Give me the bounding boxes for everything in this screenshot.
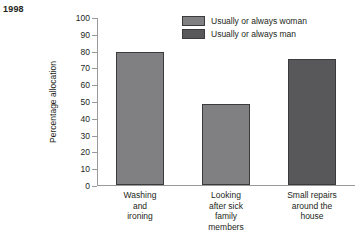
category-label-line: family — [183, 211, 269, 222]
category-label-line: ironing — [97, 211, 183, 222]
bar — [288, 59, 336, 185]
y-tick-mark — [92, 102, 97, 103]
category-label-line: house — [269, 211, 355, 222]
y-tick-mark — [92, 186, 97, 187]
y-tick-mark — [92, 85, 97, 86]
year-label: 1998 — [3, 4, 24, 14]
y-tick-label: 0 — [85, 182, 90, 191]
category-label-line: Looking — [183, 190, 269, 201]
y-tick-mark — [92, 152, 97, 153]
y-tick-label: 60 — [81, 81, 90, 90]
y-tick-label: 80 — [81, 47, 90, 56]
y-axis-title: Percentage allocation — [47, 18, 59, 186]
plot-area: 1009080706050403020100 — [97, 18, 355, 186]
y-tick-label: 20 — [81, 148, 90, 157]
y-tick-mark — [92, 52, 97, 53]
y-tick-label: 100 — [76, 14, 90, 23]
x-axis-category-labels: WashingandironingLookingafter sickfamily… — [97, 190, 355, 243]
y-tick-mark — [92, 68, 97, 69]
bar — [116, 52, 164, 185]
category-label-line: Washing — [97, 190, 183, 201]
x-axis-line — [97, 185, 355, 186]
category-label: Small repairsaround thehouse — [269, 190, 355, 222]
y-tick-label: 50 — [81, 98, 90, 107]
y-tick-mark — [92, 119, 97, 120]
category-label-line: after sick — [183, 201, 269, 212]
y-tick-label: 40 — [81, 115, 90, 124]
category-label-line: and — [97, 201, 183, 212]
y-tick-mark — [92, 18, 97, 19]
y-tick-mark — [92, 136, 97, 137]
category-label-line: members — [183, 222, 269, 233]
category-label: Washingandironing — [97, 190, 183, 222]
category-label-line: Small repairs — [269, 190, 355, 201]
y-tick-label: 30 — [81, 131, 90, 140]
bar — [202, 104, 250, 185]
category-label-line: around the — [269, 201, 355, 212]
y-tick-mark — [92, 169, 97, 170]
y-tick-label: 70 — [81, 64, 90, 73]
category-label: Lookingafter sickfamilymembers — [183, 190, 269, 232]
y-tick-label: 10 — [81, 165, 90, 174]
y-tick-mark — [92, 35, 97, 36]
y-tick-label: 90 — [81, 31, 90, 40]
y-axis-line — [97, 18, 98, 186]
